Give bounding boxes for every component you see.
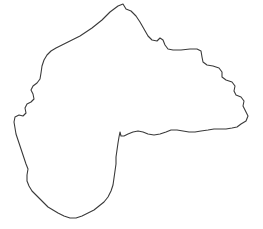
map-figure	[0, 0, 263, 229]
map-canvas	[0, 0, 263, 229]
